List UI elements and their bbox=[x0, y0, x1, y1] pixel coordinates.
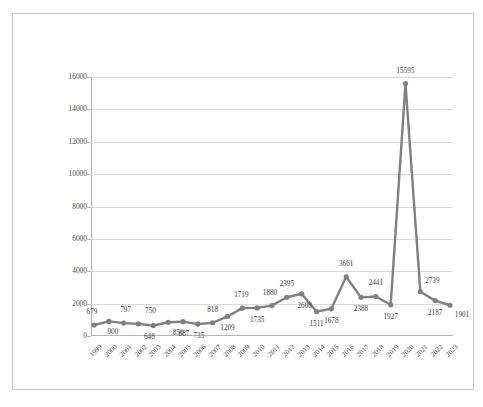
data-point-marker[interactable] bbox=[447, 303, 452, 308]
data-point-label: 887 bbox=[179, 331, 190, 338]
data-point-label: 1719 bbox=[234, 293, 248, 300]
data-point-label: 1735 bbox=[250, 317, 264, 324]
data-point-marker[interactable] bbox=[180, 319, 185, 324]
data-point-marker[interactable] bbox=[195, 322, 200, 327]
x-axis-tick-labels: 1999200020012002200320042005200620072008… bbox=[91, 339, 453, 381]
data-point-label: 1901 bbox=[455, 313, 469, 320]
data-point-label: 750 bbox=[145, 308, 156, 315]
data-point-label: 2608 bbox=[297, 303, 311, 310]
data-point-marker[interactable] bbox=[151, 323, 156, 328]
data-point-marker[interactable] bbox=[418, 289, 423, 294]
data-point-marker[interactable] bbox=[210, 320, 215, 325]
data-point-marker[interactable] bbox=[403, 81, 408, 86]
y-axis-tick-label: 6000 bbox=[45, 235, 87, 242]
plot-area: 6799007977506488508877358181209171917351… bbox=[91, 77, 453, 336]
data-point-label: 2187 bbox=[428, 310, 442, 317]
data-point-label: 818 bbox=[207, 307, 218, 314]
data-point-label: 3661 bbox=[339, 261, 353, 268]
data-point-marker[interactable] bbox=[121, 321, 126, 326]
data-point-marker[interactable] bbox=[240, 306, 245, 311]
data-point-label: 1927 bbox=[383, 314, 397, 321]
data-point-marker[interactable] bbox=[433, 298, 438, 303]
data-point-marker[interactable] bbox=[358, 295, 363, 300]
y-axis-tick-label: 0 bbox=[45, 332, 87, 339]
data-point-label: 15595 bbox=[397, 68, 415, 75]
data-point-marker[interactable] bbox=[314, 309, 319, 314]
data-point-marker[interactable] bbox=[329, 306, 334, 311]
data-point-marker[interactable] bbox=[284, 295, 289, 300]
data-point-label: 1678 bbox=[324, 318, 338, 325]
y-axis-tick-label: 14000 bbox=[45, 106, 87, 113]
y-axis-tick bbox=[87, 336, 91, 337]
data-point-label: 1209 bbox=[220, 326, 234, 333]
data-point-label: 900 bbox=[107, 330, 118, 337]
data-point-marker[interactable] bbox=[344, 274, 349, 279]
chart-frame: 0200040006000800010000120001400016000 67… bbox=[12, 13, 474, 390]
data-point-label: 1511 bbox=[309, 321, 323, 328]
data-point-marker[interactable] bbox=[106, 319, 111, 324]
data-point-label: 2388 bbox=[354, 307, 368, 314]
data-point-marker[interactable] bbox=[91, 322, 96, 327]
y-axis-tick-label: 12000 bbox=[45, 138, 87, 145]
data-point-marker[interactable] bbox=[136, 321, 141, 326]
data-point-label: 679 bbox=[87, 309, 98, 316]
data-point-marker[interactable] bbox=[388, 302, 393, 307]
y-axis-tick-label: 2000 bbox=[45, 300, 87, 307]
y-axis-tick-label: 10000 bbox=[45, 170, 87, 177]
data-point-marker[interactable] bbox=[255, 305, 260, 310]
data-point-marker[interactable] bbox=[225, 314, 230, 319]
data-point-label: 2395 bbox=[280, 282, 294, 289]
data-point-label: 1880 bbox=[263, 290, 277, 297]
y-axis-tick-label: 16000 bbox=[45, 73, 87, 80]
data-point-marker[interactable] bbox=[373, 294, 378, 299]
data-point-marker[interactable] bbox=[166, 320, 171, 325]
data-point-marker[interactable] bbox=[299, 291, 304, 296]
chart-screenshot: 0200040006000800010000120001400016000 67… bbox=[0, 0, 483, 407]
data-point-label: 797 bbox=[120, 307, 131, 314]
data-point-label: 2739 bbox=[425, 278, 439, 285]
data-point-label: 2441 bbox=[369, 281, 383, 288]
y-axis-tick-labels: 0200040006000800010000120001400016000 bbox=[43, 77, 87, 336]
y-axis-tick-label: 8000 bbox=[45, 203, 87, 210]
y-axis-tick-label: 4000 bbox=[45, 268, 87, 275]
data-point-marker[interactable] bbox=[269, 303, 274, 308]
